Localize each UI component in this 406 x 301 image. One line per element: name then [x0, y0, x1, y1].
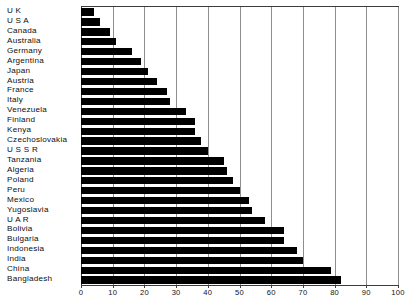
category-label: Mexico: [0, 195, 76, 205]
category-label: Kenya: [0, 125, 76, 135]
bar: [81, 128, 195, 135]
bar: [81, 187, 240, 194]
category-axis: U KU S ACanadaAustraliaGermanyArgentinaJ…: [0, 6, 78, 284]
axis-tick-label: 70: [298, 288, 307, 298]
bar-row: [81, 96, 398, 106]
gridline: [398, 7, 399, 285]
bar: [81, 227, 284, 234]
category-label: Finland: [0, 115, 76, 125]
category-label: China: [0, 264, 76, 274]
category-label: France: [0, 85, 76, 95]
bar-row: [81, 196, 398, 206]
bar: [81, 48, 132, 55]
bar-row: [81, 136, 398, 146]
bar-row: [81, 77, 398, 87]
category-label: Japan: [0, 66, 76, 76]
category-label: Algeria: [0, 165, 76, 175]
axis-tick-label: 50: [235, 288, 244, 298]
bar-row: [81, 245, 398, 255]
bar: [81, 88, 167, 95]
bar: [81, 147, 208, 154]
bar-row: [81, 265, 398, 275]
category-label: Austria: [0, 76, 76, 86]
axis-tick-label: 40: [203, 288, 212, 298]
category-label: U S A: [0, 16, 76, 26]
bar: [81, 28, 110, 35]
bar-row: [81, 17, 398, 27]
category-label: U S S R: [0, 145, 76, 155]
bar-row: [81, 255, 398, 265]
bar: [81, 207, 252, 214]
axis-tick-label: 100: [391, 288, 404, 298]
bar: [81, 177, 233, 184]
category-label: Bolivia: [0, 224, 76, 234]
category-label: Germany: [0, 46, 76, 56]
bar-row: [81, 7, 398, 17]
category-label: Poland: [0, 175, 76, 185]
bar: [81, 257, 303, 264]
bar-row: [81, 67, 398, 77]
bar-row: [81, 275, 398, 285]
bar: [81, 98, 170, 105]
bar: [81, 68, 148, 75]
bar: [81, 108, 186, 115]
bar-row: [81, 206, 398, 216]
bar-row: [81, 116, 398, 126]
bar: [81, 237, 284, 244]
axis-tick-label: 30: [172, 288, 181, 298]
bar-row: [81, 86, 398, 96]
bar: [81, 247, 297, 254]
axis-tick-label: 80: [330, 288, 339, 298]
bar-row: [81, 57, 398, 67]
bar: [81, 167, 227, 174]
value-axis: 0102030405060708090100: [81, 285, 398, 301]
bar-row: [81, 27, 398, 37]
category-label: Australia: [0, 36, 76, 46]
bar: [81, 8, 94, 15]
category-label: Italy: [0, 95, 76, 105]
axis-tick-label: 60: [267, 288, 276, 298]
category-label: Tanzania: [0, 155, 76, 165]
bar-row: [81, 225, 398, 235]
bars-layer: [81, 7, 398, 285]
category-label: Bangladesh: [0, 274, 76, 284]
bar-row: [81, 126, 398, 136]
bar-row: [81, 166, 398, 176]
bar-row: [81, 216, 398, 226]
axis-tick-label: 20: [140, 288, 149, 298]
bar: [81, 58, 141, 65]
bar-row: [81, 146, 398, 156]
bar: [81, 18, 100, 25]
bar-row: [81, 156, 398, 166]
category-label: Peru: [0, 185, 76, 195]
category-label: Argentina: [0, 56, 76, 66]
bar: [81, 38, 116, 45]
axis-tick-label: 10: [108, 288, 117, 298]
bar-row: [81, 37, 398, 47]
bar: [81, 197, 249, 204]
bar-row: [81, 106, 398, 116]
bar-row: [81, 235, 398, 245]
axis-tick-label: 90: [362, 288, 371, 298]
bar-row: [81, 47, 398, 57]
category-label: India: [0, 254, 76, 264]
bar: [81, 137, 201, 144]
bar: [81, 118, 195, 125]
category-label: Venezuela: [0, 105, 76, 115]
category-label: U K: [0, 6, 76, 16]
axis-tick-label: 0: [79, 288, 83, 298]
bar: [81, 217, 265, 224]
bar-chart: U KU S ACanadaAustraliaGermanyArgentinaJ…: [0, 0, 406, 301]
bar: [81, 157, 224, 164]
category-label: Yugoslavia: [0, 205, 76, 215]
bar-row: [81, 186, 398, 196]
bar: [81, 276, 341, 283]
category-label: U A R: [0, 215, 76, 225]
category-label: Bulgaria: [0, 234, 76, 244]
bar-row: [81, 176, 398, 186]
category-label: Canada: [0, 26, 76, 36]
plot-area: [81, 6, 399, 286]
category-label: Czechoslovakia: [0, 135, 76, 145]
category-label: Indonesia: [0, 244, 76, 254]
bar: [81, 78, 157, 85]
